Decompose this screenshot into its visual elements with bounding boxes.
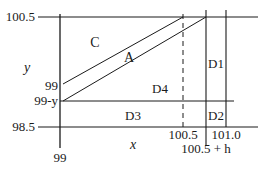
x-tick-101: 101.0 (211, 127, 240, 142)
region-diagram: 100.5 98.5 99 99-y y x 99 100.5 101.0 10… (0, 0, 266, 170)
region-label-d4: D4 (152, 81, 168, 96)
region-label-c: C (90, 35, 99, 50)
diagram-svg: 100.5 98.5 99 99-y y x 99 100.5 101.0 10… (0, 0, 266, 170)
x-tick-100-5-plus-h: 100.5 + h (181, 141, 231, 156)
region-label-d3: D3 (125, 108, 141, 123)
y-tick-99: 99 (45, 78, 58, 93)
region-label-d2: D2 (208, 108, 224, 123)
x-tick-99: 99 (54, 150, 67, 165)
lower-diagonal-line (63, 17, 206, 101)
y-tick-100-5: 100.5 (6, 9, 35, 24)
region-label-a: A (124, 50, 135, 65)
region-label-d1: D1 (208, 56, 224, 71)
x-tick-100-5: 100.5 (168, 127, 197, 142)
x-axis-label: x (129, 137, 137, 152)
y-axis-label: y (22, 60, 31, 75)
y-tick-99-minus-y: 99-y (34, 93, 58, 108)
y-tick-98-5: 98.5 (12, 119, 35, 134)
